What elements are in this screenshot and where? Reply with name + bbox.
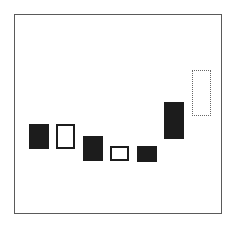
candle-filled-6 bbox=[164, 102, 184, 139]
candle-dotted-7 bbox=[192, 70, 211, 116]
candle-filled-1 bbox=[29, 124, 49, 149]
candle-filled-5 bbox=[137, 146, 157, 162]
candle-filled-3 bbox=[83, 136, 103, 161]
diagram-frame bbox=[14, 14, 222, 214]
candle-hollow-2 bbox=[56, 124, 75, 149]
candle-hollow-4 bbox=[110, 146, 129, 161]
